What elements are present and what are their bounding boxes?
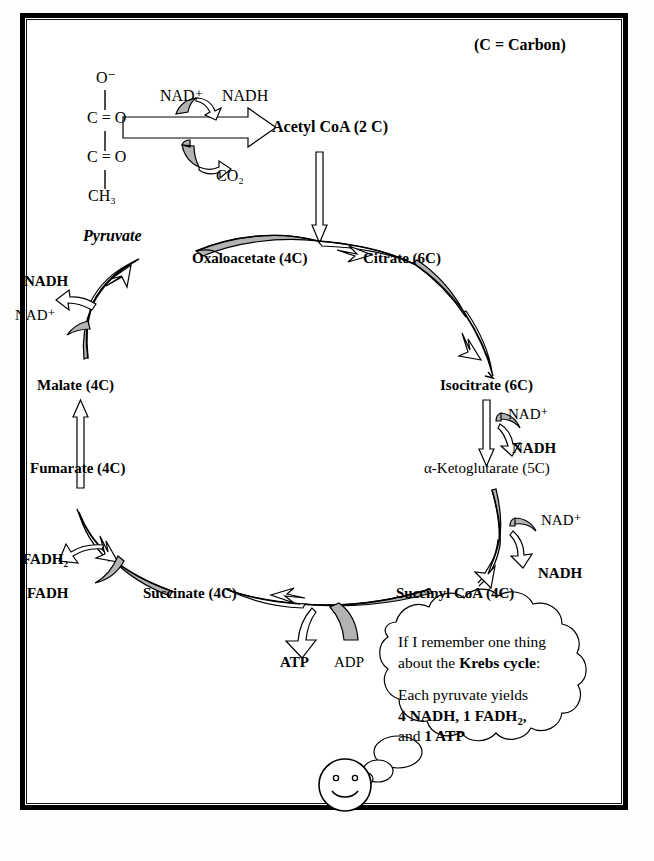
thought-bubble-text: If I remember one thing about the Krebs … — [398, 632, 588, 747]
metabolite-alpha-ketoglutarate: α-Ketoglutarate (5C) — [424, 461, 550, 477]
nadh-isocitrate-step: NADH — [512, 441, 556, 457]
pyruvate-atom-c2: C = O — [87, 149, 126, 166]
nadh-malate-step: NADH — [24, 274, 68, 290]
bubble-line-2-prefix: about the — [398, 654, 459, 671]
nadh-ketoglutarate-step: NADH — [538, 566, 582, 582]
fadh-succinate-step: FADH — [27, 586, 68, 602]
atp-label: ATP — [280, 655, 309, 671]
cycle-arrow-citrate-to-isocitrate — [413, 260, 493, 378]
bubble-line-3: Each pyruvate yields — [398, 686, 528, 703]
nad-plus-isocitrate-step: NAD⁺ — [508, 407, 548, 423]
bubble-line-2-suffix: : — [536, 654, 540, 671]
nad-plus-ketoglutarate-step: NAD⁺ — [541, 513, 581, 529]
cycle-arrow-isocitrate-to-ketoglutarate — [479, 400, 494, 466]
pyruvate-atom-c1: C = O — [87, 110, 126, 127]
co2-label: CO₂ — [216, 168, 244, 185]
metabolite-fumarate: Fumarate (4C) — [30, 461, 125, 477]
acetyl-coa-label: Acetyl CoA (2 C) — [272, 119, 388, 136]
metabolite-malate: Malate (4C) — [37, 378, 114, 394]
carbon-legend: (C = Carbon) — [474, 37, 566, 54]
metabolite-succinate: Succinate (4C) — [143, 586, 237, 602]
fadh2-succinate-step: FADH₂ — [22, 552, 68, 568]
cycle-arrow-succinate-to-fumarate — [77, 509, 174, 596]
nad-plus-malate-step: NAD⁺ — [15, 308, 55, 324]
bubble-yield-atp: 1 ATP — [424, 727, 465, 744]
smiley-face — [319, 759, 371, 811]
fadh-to-fadh2-curve — [59, 544, 124, 583]
bubble-yield-nadh-fadh2: 4 NADH, 1 FADH2, — [398, 707, 527, 724]
metabolite-isocitrate: Isocitrate (6C) — [440, 378, 533, 394]
metabolite-citrate: Citrate (6C) — [363, 251, 441, 267]
metabolite-succinyl-coa: Succinyl CoA (4C) — [396, 586, 514, 602]
adp-label: ADP — [334, 655, 364, 671]
bubble-krebs-cycle: Krebs cycle — [459, 654, 536, 671]
adp-to-atp-curve — [286, 603, 358, 658]
acetylcoa-entry-arrow — [312, 152, 327, 243]
pyruvate-atom-o-minus: O⁻ — [96, 70, 116, 87]
pyruvate-atom-ch3: CH₃ — [88, 188, 116, 205]
cycle-arrow-ketoglutarate-to-succinylcoa — [475, 489, 501, 588]
pyruvate-label: Pyruvate — [83, 228, 142, 245]
metabolite-oxaloacetate: Oxaloacetate (4C) — [192, 251, 307, 267]
nad-to-nadh-curve-ketoglutarate — [510, 518, 536, 568]
nad-plus-pyruvate-step: NAD⁺ — [160, 88, 203, 105]
pyruvate-to-acetylcoa-arrow — [123, 108, 276, 147]
bubble-line-1: If I remember one thing — [398, 633, 546, 650]
bubble-line-5-prefix: and — [398, 727, 424, 744]
diagram-page: .ln { stroke:#000; fill:none; stroke-wid… — [0, 0, 654, 861]
nadh-pyruvate-step: NADH — [222, 88, 268, 105]
